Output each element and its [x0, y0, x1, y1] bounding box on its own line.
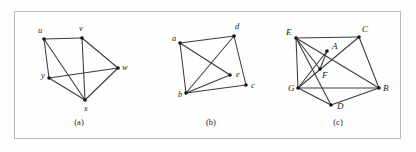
edge-u-x [44, 39, 85, 100]
edge-v-w [82, 38, 118, 68]
vertex-label-e: e [236, 69, 240, 79]
vertex-B [377, 86, 381, 90]
panel-b-edges [180, 36, 246, 93]
edge-y-x [49, 78, 85, 100]
panel-caption-b: (b) [206, 117, 216, 127]
figure-root: uvwyx(a)adecb(b)ECAFGBD(c) [0, 0, 416, 152]
graph-panel-b: adecb(b) [172, 21, 255, 127]
vertex-label-b: b [178, 89, 182, 99]
edge-v-x [82, 38, 85, 100]
edge-E-G [296, 38, 298, 88]
vertex-e [228, 73, 232, 77]
vertex-y [47, 76, 51, 80]
panel-caption-a: (a) [74, 117, 84, 127]
vertex-x [83, 98, 87, 102]
vertex-b [184, 91, 188, 95]
panel-a-edges [44, 38, 118, 100]
vertex-label-D: D [336, 101, 344, 111]
edge-a-d [180, 36, 234, 43]
graph-panel-a: uvwyx(a) [38, 23, 128, 127]
vertex-label-C: C [362, 24, 369, 34]
vertex-label-w: w [122, 62, 128, 72]
vertex-label-v: v [79, 23, 83, 33]
graph-panel-c: ECAFGBD(c) [285, 24, 389, 127]
vertex-label-u: u [38, 25, 42, 35]
vertex-G [296, 86, 300, 90]
vertex-label-A: A [331, 41, 338, 51]
edge-E-B [296, 38, 379, 88]
vertex-c [244, 83, 248, 87]
vertex-label-G: G [288, 83, 295, 93]
vertex-C [357, 35, 361, 39]
vertex-A [325, 49, 329, 53]
vertex-label-x: x [83, 103, 88, 113]
vertex-D [329, 103, 333, 107]
vertex-u [42, 37, 46, 41]
graph-panels-group: uvwyx(a)adecb(b)ECAFGBD(c) [38, 21, 389, 127]
vertex-label-c: c [251, 80, 255, 90]
vertex-label-F: F [321, 70, 328, 80]
vertex-a [178, 41, 182, 45]
vertex-label-d: d [235, 21, 240, 31]
edge-u-v [44, 38, 82, 39]
edge-a-b [180, 43, 186, 93]
vertex-w [116, 66, 120, 70]
graph-figure-canvas: uvwyx(a)adecb(b)ECAFGBD(c) [0, 0, 416, 152]
vertex-E [294, 36, 298, 40]
vertex-v [80, 36, 84, 40]
vertex-label-B: B [383, 83, 389, 93]
edge-x-w [85, 68, 118, 100]
vertex-d [232, 34, 236, 38]
edge-E-C [296, 37, 359, 38]
vertex-label-E: E [285, 27, 292, 37]
edge-b-d [186, 36, 234, 93]
panel-caption-c: (c) [333, 117, 343, 127]
panel-c-edges [296, 37, 379, 105]
vertex-label-a: a [172, 33, 176, 43]
vertex-label-y: y [40, 70, 45, 80]
edge-C-B [359, 37, 379, 88]
